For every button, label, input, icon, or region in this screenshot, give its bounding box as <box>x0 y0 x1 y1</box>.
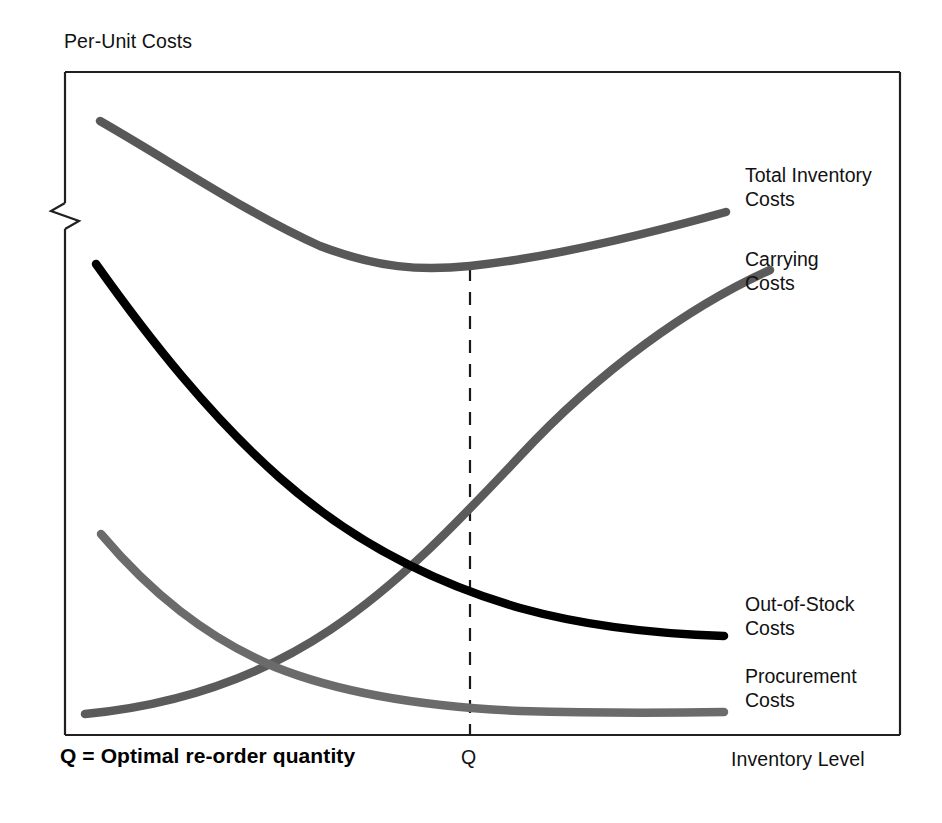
x-axis-title: Inventory Level <box>731 748 865 771</box>
curve-total-inventory-costs <box>100 121 726 268</box>
curve-out-of-stock-costs <box>96 264 724 636</box>
curve-carrying-costs <box>85 270 770 714</box>
series-label-total-inventory-costs: Total Inventory Costs <box>745 163 872 211</box>
chart-container: Per-Unit Costs Total Inventory Costs Car… <box>0 0 942 823</box>
series-label-out-of-stock-costs: Out-of-Stock Costs <box>745 592 854 640</box>
y-axis-break-icon <box>51 203 79 229</box>
series-label-procurement-costs: Procurement Costs <box>745 664 857 712</box>
x-axis-tick-label-q: Q <box>461 746 476 769</box>
series-label-carrying-costs: Carrying Costs <box>745 247 819 295</box>
chart-caption: Q = Optimal re-order quantity <box>60 744 355 768</box>
